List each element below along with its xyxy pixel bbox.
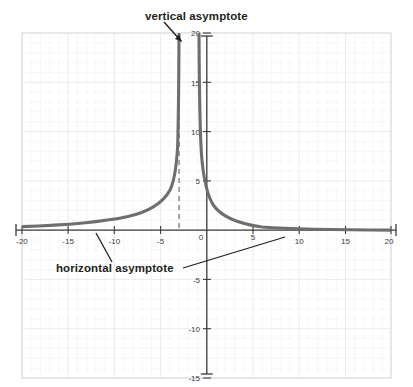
- x-tick-label: -5: [157, 237, 165, 246]
- graph-figure: -20 -15 -10 -5 0 5 10 15 20 20 15 10 5 -…: [0, 0, 413, 387]
- y-tick-label: -15: [188, 374, 200, 383]
- x-tick-label: -20: [16, 237, 28, 246]
- y-tick-label: -5: [193, 276, 201, 285]
- graph-canvas: -20 -15 -10 -5 0 5 10 15 20 20 15 10 5 -…: [0, 0, 413, 387]
- vertical-asymptote-label: vertical asymptote: [145, 10, 248, 22]
- x-tick-label: 10: [295, 237, 304, 246]
- horizontal-asymptote-label: horizontal asymptote: [56, 262, 174, 274]
- x-tick-label: 15: [341, 237, 350, 246]
- x-tick-label: 20: [385, 237, 394, 246]
- x-tick-label: -15: [62, 237, 74, 246]
- x-tick-label: 5: [251, 233, 256, 242]
- y-tick-label: -10: [188, 325, 200, 334]
- x-tick-label: -10: [109, 237, 121, 246]
- x-tick-label-origin: 0: [199, 233, 204, 242]
- y-tick-label: 5: [196, 177, 201, 186]
